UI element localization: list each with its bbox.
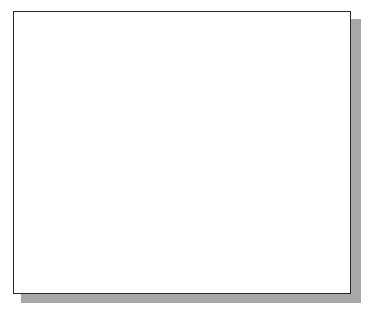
drawing-canvas[interactable] bbox=[0, 0, 368, 310]
